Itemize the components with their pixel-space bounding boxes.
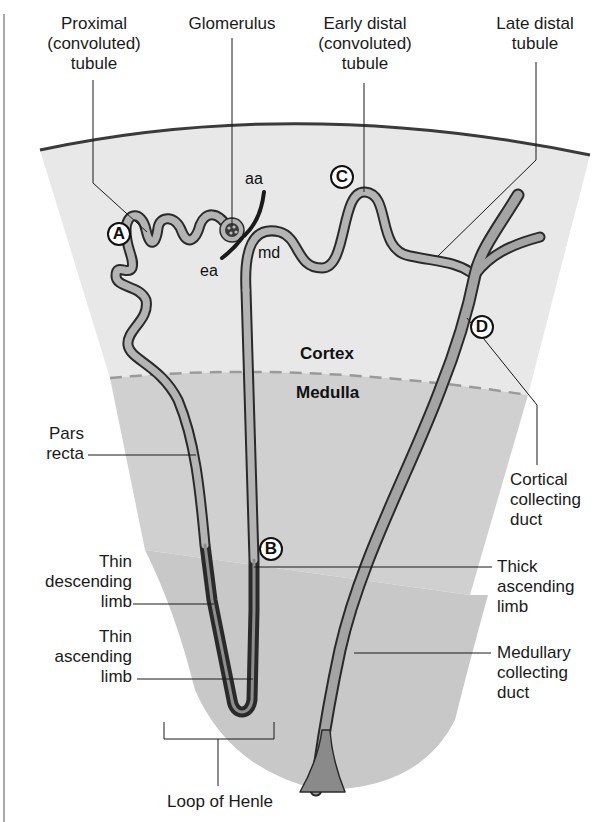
label-loop-of-henle: Loop of Henle (140, 792, 300, 812)
label-pars-recta: Pars recta (20, 424, 84, 464)
efferent-arteriole-label: ea (200, 262, 218, 280)
label-proximal-tubule: Proximal (convoluted) tubule (38, 14, 150, 74)
label-thick-ascending-limb: Thick ascending limb (497, 557, 607, 617)
medulla-label: Medulla (296, 383, 359, 403)
marker-b: B (259, 537, 283, 561)
label-early-distal-tubule: Early distal (convoluted) tubule (305, 14, 425, 74)
macula-densa-label: md (258, 244, 280, 262)
label-medullary-collecting-duct: Medullary collecting duct (497, 643, 607, 703)
marker-c: C (330, 165, 354, 189)
label-thin-ascending-limb: Thin ascending limb (10, 627, 132, 687)
afferent-arteriole-label: aa (245, 170, 263, 188)
marker-d: D (470, 315, 494, 339)
marker-a: A (107, 222, 131, 246)
label-late-distal-tubule: Late distal tubule (480, 14, 590, 54)
cortex-label: Cortex (300, 344, 354, 364)
label-thin-descending-limb: Thin descending limb (10, 552, 132, 612)
label-glomerulus: Glomerulus (176, 14, 288, 34)
label-cortical-collecting-duct: Cortical collecting duct (510, 470, 610, 530)
